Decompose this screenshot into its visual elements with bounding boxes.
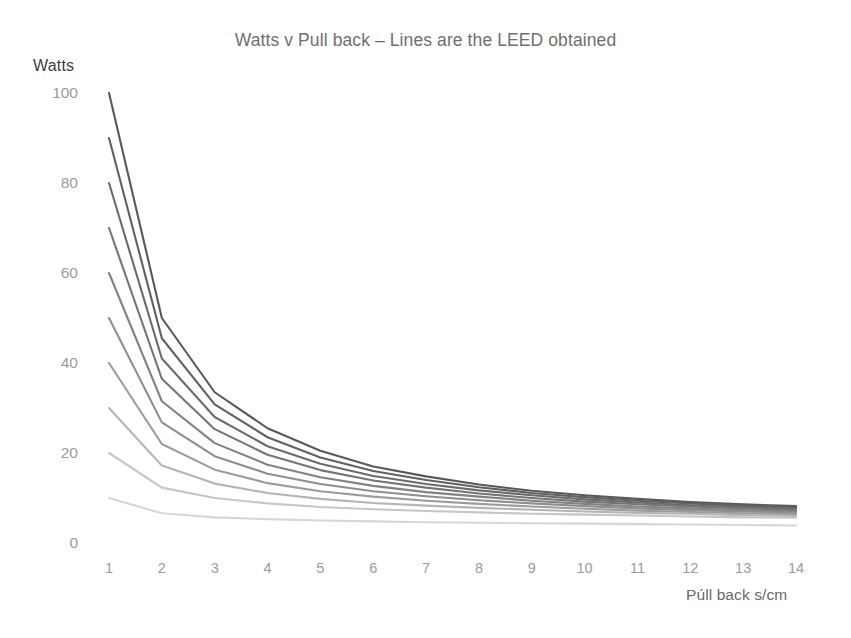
chart-container: Watts v Pull back – Lines are the LEED o… [0, 0, 851, 638]
series-line-30 [109, 408, 796, 516]
series-lines [109, 93, 796, 525]
series-line-90 [109, 138, 796, 507]
series-line-100 [109, 93, 796, 506]
plot-area [0, 0, 851, 638]
series-line-60 [109, 273, 796, 512]
series-line-80 [109, 183, 796, 509]
